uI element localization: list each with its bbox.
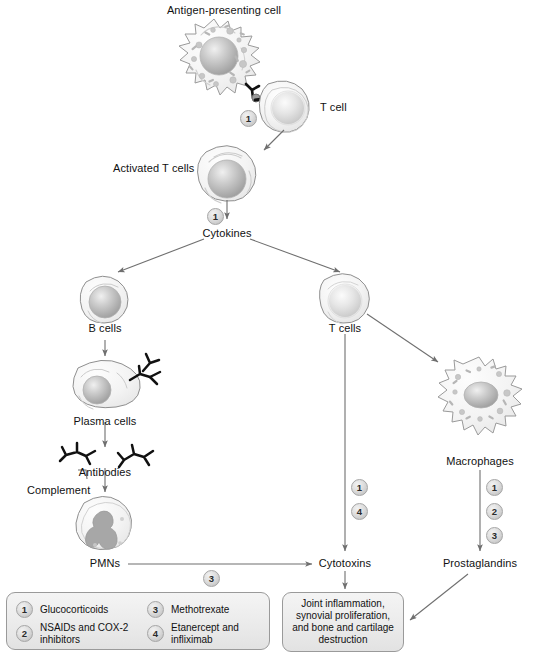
outcome-box: Joint inflammation, synovial proliferati… xyxy=(282,592,404,652)
arrow-prostaglandins-to-outcome xyxy=(410,574,468,620)
label-antibodies: Antibodies xyxy=(79,466,131,479)
label-t-cells: T cells xyxy=(329,322,361,335)
marker-activated-to-cytokines: 1 xyxy=(207,208,224,225)
marker-apc-tcell: 1 xyxy=(240,110,257,127)
label-pmns: PMNs xyxy=(90,557,120,570)
legend-label-3: Methotrexate xyxy=(171,604,229,616)
marker-pmns-to-cytotoxins: 3 xyxy=(203,570,220,587)
marker-macrophage-branch-1: 1 xyxy=(486,479,503,496)
t-cell-graphic xyxy=(259,81,309,132)
label-complement: Complement xyxy=(27,484,90,497)
legend-item-4: 4 Etanercept and infliximab xyxy=(147,622,239,645)
macrophage-graphic xyxy=(438,357,522,435)
marker-tcell-branch-2: 4 xyxy=(351,503,368,520)
label-plasma-cells: Plasma cells xyxy=(74,415,137,428)
label-activated-t-cells: Activated T cells xyxy=(113,162,194,175)
arrow-tcells-to-macrophages xyxy=(367,314,438,362)
arrow-cytokines-to-bcells xyxy=(118,239,204,272)
legend-item-2: 2 NSAIDs and COX-2 inhibitors xyxy=(16,622,128,645)
marker-macrophage-branch-2: 2 xyxy=(486,503,503,520)
legend-number-1: 1 xyxy=(16,601,33,618)
arrow-tcell-to-activated xyxy=(264,130,284,150)
legend-label-4: Etanercept and infliximab xyxy=(171,622,239,645)
t-cells-right-graphic xyxy=(320,274,370,324)
legend-label-1: Glucocorticoids xyxy=(40,604,108,616)
label-t-cell: T cell xyxy=(320,101,347,114)
legend-box: 1 Glucocorticoids 2 NSAIDs and COX-2 inh… xyxy=(6,592,270,650)
immune-pathway-diagram: Antigen-presenting cell T cell Activated… xyxy=(0,0,537,659)
legend-number-4: 4 xyxy=(147,625,164,642)
label-macrophages: Macrophages xyxy=(446,455,514,468)
plasma-cell-graphic xyxy=(73,360,140,409)
activated-t-cell-graphic xyxy=(198,146,256,203)
b-cell-graphic xyxy=(80,276,128,323)
marker-tcell-branch-1: 1 xyxy=(351,479,368,496)
label-cytokines: Cytokines xyxy=(202,227,251,240)
arrow-cytokines-to-tcells xyxy=(250,239,340,272)
legend-item-3: 3 Methotrexate xyxy=(147,601,229,618)
legend-label-2: NSAIDs and COX-2 inhibitors xyxy=(40,622,128,645)
label-prostaglandins: Prostaglandins xyxy=(443,557,517,570)
label-antigen-presenting-cell: Antigen-presenting cell xyxy=(167,4,281,17)
label-cytotoxins: Cytotoxins xyxy=(319,557,371,570)
pmn-graphic xyxy=(76,496,132,549)
outcome-text: Joint inflammation, synovial proliferati… xyxy=(283,598,403,647)
marker-macrophage-branch-3: 3 xyxy=(486,527,503,544)
label-b-cells: B cells xyxy=(88,322,121,335)
legend-number-2: 2 xyxy=(16,625,33,642)
antibodies-graphic xyxy=(60,443,153,467)
antigen-presenting-cell-graphic xyxy=(179,19,260,95)
legend-number-3: 3 xyxy=(147,601,164,618)
legend-item-1: 1 Glucocorticoids xyxy=(16,601,108,618)
